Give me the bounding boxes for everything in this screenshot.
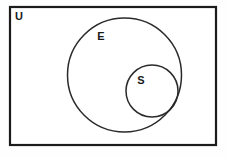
set-s-label: S xyxy=(137,74,144,86)
universe-set-rectangle xyxy=(10,7,216,145)
venn-diagram-canvas: U E S xyxy=(0,0,227,157)
venn-diagram-svg: U E S xyxy=(0,0,227,157)
universe-label: U xyxy=(15,10,23,22)
set-e-label: E xyxy=(97,30,104,42)
